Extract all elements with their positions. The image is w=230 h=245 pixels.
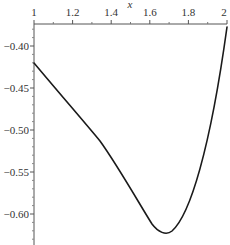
x-tick-label-1-2: 1.2 [66, 6, 80, 18]
y-tick-label-0-55: −0.55 [4, 166, 30, 178]
y-tick-label-0-40: −0.40 [4, 40, 30, 52]
x-tick-label-1-8: 1.8 [182, 6, 196, 18]
x-tick-label-1-4: 1.4 [104, 6, 118, 18]
chart-canvas: 1 1.2 1.4 1.6 1.8 2 x −0.40 [0, 0, 230, 245]
y-tick-label-0-50: −0.50 [4, 124, 30, 136]
x-tick-label-1: 1 [31, 6, 37, 18]
y-tick-label-0-60: −0.60 [4, 208, 30, 220]
x-tick-label-2: 2 [221, 6, 227, 18]
x-tick-label-1-6: 1.6 [143, 6, 157, 18]
x-axis-label: x [127, 0, 133, 10]
y-tick-label-0-45: −0.45 [4, 82, 30, 94]
data-curve [34, 27, 227, 233]
